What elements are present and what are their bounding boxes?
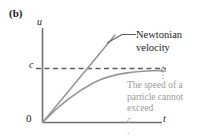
velocity-vs-time-figure: (b) u t 0 c Newtonian velocity The speed… — [0, 0, 201, 138]
limit-annotation-line-3: exceed c. — [127, 103, 183, 138]
newtonian-velocity-annotation: Newtonian velocity — [136, 28, 182, 54]
newtonian-annotation-line-1: Newtonian — [136, 28, 182, 41]
limit-annotation-line-3-suffix: . — [127, 126, 183, 138]
c-axis-tick-label: c — [29, 60, 33, 70]
limit-annotation-line-3-prefix: exceed — [127, 103, 183, 115]
newtonian-annotation-line-2: velocity — [136, 41, 182, 54]
limit-annotation-line-2: particle cannot — [127, 92, 183, 104]
panel-label: (b) — [9, 8, 22, 19]
y-axis-label: u — [37, 17, 42, 27]
origin-label: 0 — [26, 113, 32, 124]
limit-annotation-line-1: The speed of a — [127, 80, 183, 92]
limit-annotation-line-3-symbol: c — [127, 115, 183, 127]
speed-limit-annotation: The speed of a particle cannot exceed c. — [127, 80, 183, 138]
